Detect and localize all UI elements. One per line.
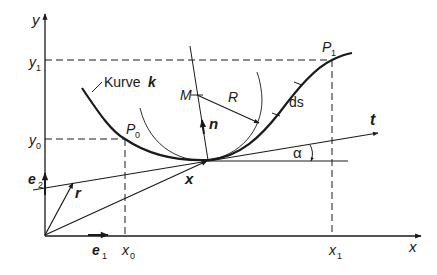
curve-geometry-diagram: y x e 1 e 2 y 1 y 0 x 0 x 1 ds n M bbox=[0, 0, 437, 275]
y-axis-label: y bbox=[31, 11, 41, 28]
r-vector bbox=[45, 183, 73, 235]
svg-text:1: 1 bbox=[36, 63, 41, 73]
ds-label: ds bbox=[289, 94, 304, 110]
m-label: M bbox=[180, 87, 192, 103]
ds-tick-upper bbox=[294, 82, 302, 85]
curve-label: Kurve k bbox=[104, 74, 157, 90]
tangent-label: t bbox=[370, 111, 376, 128]
svg-text:Kurve: Kurve bbox=[104, 74, 141, 90]
x1-label: x 1 bbox=[328, 242, 342, 261]
svg-text:x: x bbox=[121, 242, 130, 258]
svg-text:e: e bbox=[92, 242, 100, 258]
svg-text:1: 1 bbox=[102, 251, 107, 261]
y1-label: y 1 bbox=[28, 54, 41, 73]
svg-text:1: 1 bbox=[331, 48, 336, 58]
e2-label: e 2 bbox=[28, 171, 43, 190]
x-vector-label: x bbox=[184, 170, 194, 187]
radius-label: R bbox=[228, 89, 238, 105]
svg-text:0: 0 bbox=[135, 130, 140, 140]
curve-label-leader bbox=[92, 82, 102, 92]
n-label: n bbox=[209, 115, 218, 132]
svg-text:0: 0 bbox=[130, 251, 135, 261]
x0-label: x 0 bbox=[121, 242, 135, 261]
p1-label: P 1 bbox=[322, 39, 336, 58]
svg-text:k: k bbox=[148, 74, 157, 90]
p0-label: P 0 bbox=[126, 121, 140, 140]
y0-label: y 0 bbox=[28, 132, 41, 151]
normal-line bbox=[190, 46, 208, 160]
alpha-label: α bbox=[293, 144, 302, 161]
svg-text:1: 1 bbox=[337, 251, 342, 261]
alpha-arc bbox=[310, 145, 312, 161]
svg-text:0: 0 bbox=[36, 141, 41, 151]
svg-text:x: x bbox=[328, 242, 337, 258]
e1-label: e 1 bbox=[92, 242, 107, 261]
x-position-vector bbox=[45, 161, 207, 235]
r-label: r bbox=[75, 184, 82, 201]
x-axis-label: x bbox=[408, 238, 417, 255]
n-vector bbox=[202, 120, 204, 134]
svg-text:e: e bbox=[28, 171, 36, 187]
